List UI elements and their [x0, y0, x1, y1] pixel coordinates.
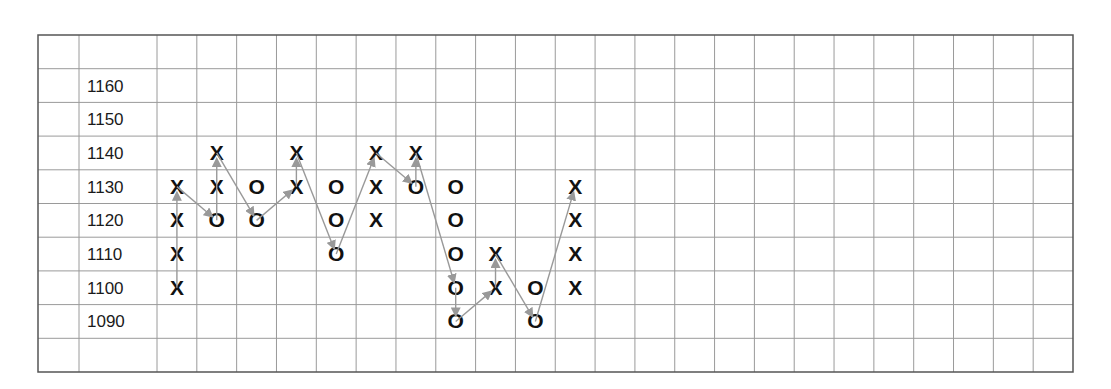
x-symbol: X [568, 242, 582, 265]
x-symbol: X [369, 141, 383, 164]
x-symbol: X [369, 208, 383, 231]
price-level-label: 1100 [87, 279, 124, 298]
trend-arrow [296, 153, 334, 249]
price-level-label: 1120 [87, 211, 124, 230]
grid [38, 35, 1073, 372]
price-level-label: 1140 [87, 144, 124, 163]
price-level-label: 1150 [87, 110, 124, 129]
trend-arrow [336, 159, 374, 255]
price-level-label: 1090 [87, 312, 125, 331]
o-symbol: O [448, 242, 464, 265]
o-symbol: O [448, 175, 464, 198]
x-symbol: X [568, 208, 582, 231]
price-level-label: 1160 [87, 77, 124, 96]
x-symbol: X [568, 276, 582, 299]
x-symbol: X [568, 175, 582, 198]
price-level-label: 1110 [87, 245, 122, 264]
point-and-figure-chart: 11601150114011301120111011001090 XXXXXXO… [0, 0, 1111, 389]
o-symbol: O [527, 276, 543, 299]
x-symbol: X [369, 175, 383, 198]
o-symbol: O [248, 175, 264, 198]
chart-canvas: 11601150114011301120111011001090 XXXXXXO… [0, 0, 1111, 389]
price-level-label: 1130 [87, 178, 124, 197]
o-symbol: O [328, 175, 344, 198]
o-symbol: O [328, 208, 344, 231]
o-symbol: O [448, 208, 464, 231]
